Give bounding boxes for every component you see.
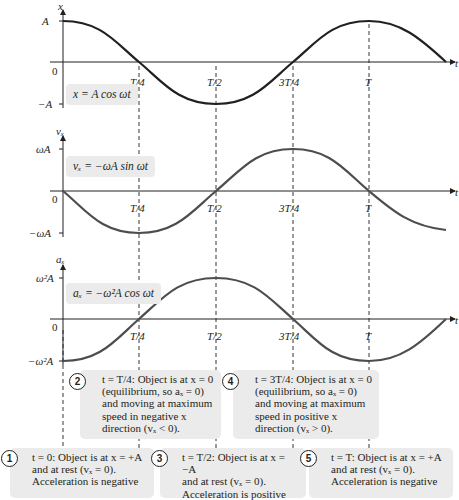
tick-t-half: T/2 xyxy=(207,202,222,214)
note-1-number-badge: 1 xyxy=(1,450,18,467)
tick-t-half: T/2 xyxy=(207,76,222,88)
acceleration-axis-label: aₓ xyxy=(56,253,65,265)
velocity-equation: vₓ = −ωA sin ωt xyxy=(66,156,155,177)
note-1: t = 0: Object is at x = +A and at rest (… xyxy=(10,448,154,498)
tick-t-three-quarter: 3T/4 xyxy=(279,76,299,88)
tick-t-half: T/2 xyxy=(207,330,222,342)
t-axis-label: t xyxy=(455,186,458,198)
acceleration-bottom-tick: −ω²A xyxy=(28,355,53,367)
note-4: t = 3T/4: Object is at x = 0 (equilibriu… xyxy=(233,370,379,439)
note-2-number-badge: 2 xyxy=(69,373,86,390)
tick-t-full: T xyxy=(365,76,371,88)
velocity-zero-label: 0 xyxy=(52,193,58,205)
velocity-axis-label: vₓ xyxy=(56,125,64,137)
t-axis-label: t xyxy=(455,57,458,69)
tick-t-three-quarter: 3T/4 xyxy=(279,202,299,214)
tick-t-quarter: T/4 xyxy=(130,330,145,342)
note-4-number-badge: 4 xyxy=(222,373,239,390)
position-bottom-tick: −A xyxy=(38,98,52,110)
tick-t-full: T xyxy=(365,202,371,214)
acceleration-zero-label: 0 xyxy=(52,321,58,333)
velocity-bottom-tick: −ωA xyxy=(29,227,51,239)
position-axis-label: x xyxy=(58,0,63,12)
note-3: t = T/2: Object is at x = −A and at rest… xyxy=(160,448,306,498)
position-top-tick: A xyxy=(42,15,49,27)
note-3-number-badge: 3 xyxy=(151,450,168,467)
note-5-number-badge: 5 xyxy=(300,450,317,467)
tick-t-three-quarter: 3T/4 xyxy=(279,330,299,342)
note-5: t = T: Object is at x = +A and at rest (… xyxy=(309,448,453,498)
position-equation: x = A cos ωt xyxy=(66,84,138,105)
acceleration-plot xyxy=(50,265,455,365)
note-2: t = T/4: Object is at x = 0 (equilibrium… xyxy=(80,370,221,439)
t-axis-label: t xyxy=(455,314,458,326)
velocity-plot xyxy=(50,136,455,237)
tick-t-quarter: T/4 xyxy=(130,202,145,214)
acceleration-equation: aₓ = −ω²A cos ωt xyxy=(66,283,161,304)
acceleration-top-tick: ω²A xyxy=(36,272,54,284)
position-zero-label: 0 xyxy=(52,65,58,77)
tick-t-full: T xyxy=(365,330,371,342)
velocity-top-tick: ωA xyxy=(36,143,51,155)
